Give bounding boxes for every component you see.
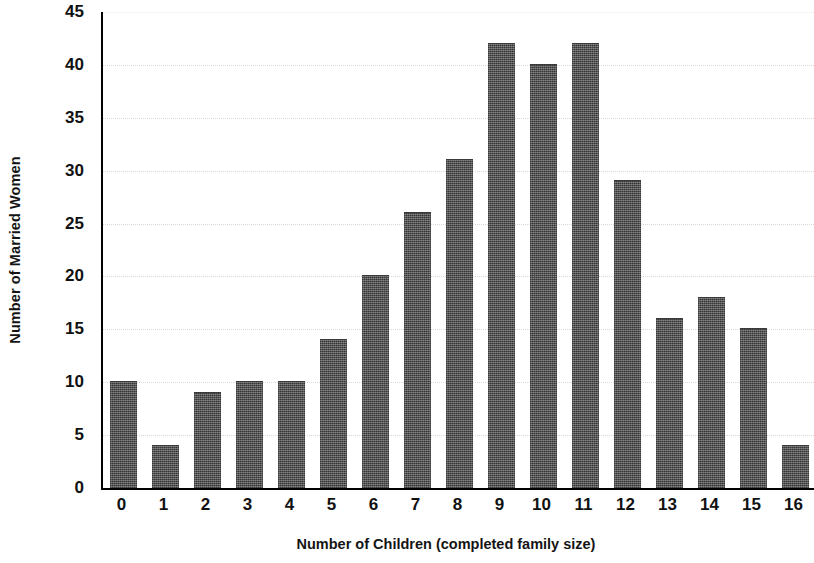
bar <box>110 381 137 488</box>
x-axis-tick-label: 13 <box>658 495 677 515</box>
bar <box>320 339 347 488</box>
bars-layer <box>103 12 814 488</box>
y-axis-tick-labels: 051015202530354045 <box>30 0 92 500</box>
y-axis-tick-label: 35 <box>65 108 84 128</box>
x-axis-tick-labels: 012345678910111213141516 <box>101 495 812 525</box>
bar <box>278 381 305 488</box>
x-axis-tick-label: 11 <box>575 495 593 515</box>
bar <box>656 318 683 488</box>
x-axis-tick-label: 1 <box>159 495 168 515</box>
bar <box>362 275 389 488</box>
y-axis-tick-label: 30 <box>65 161 84 181</box>
bar <box>530 64 557 488</box>
bar <box>404 212 431 488</box>
y-axis-tick-label: 20 <box>65 266 84 286</box>
x-axis-tick-label: 16 <box>784 495 803 515</box>
bar <box>446 159 473 488</box>
y-axis-tick-label: 10 <box>65 372 84 392</box>
x-axis-tick-label: 9 <box>495 495 504 515</box>
y-axis-title-text: Number of Married Women <box>7 156 23 343</box>
bar <box>572 43 599 488</box>
x-axis-tick-label: 7 <box>411 495 420 515</box>
x-axis-tick-label: 3 <box>243 495 252 515</box>
x-axis-tick-label: 10 <box>532 495 551 515</box>
y-axis-tick-label: 40 <box>65 55 84 75</box>
x-axis-tick-label: 4 <box>285 495 294 515</box>
x-axis-tick-label: 5 <box>327 495 336 515</box>
bar <box>152 445 179 488</box>
bar <box>236 381 263 488</box>
x-axis-tick-label: 6 <box>369 495 378 515</box>
y-axis-tick-label: 0 <box>75 478 84 498</box>
plot-area <box>101 12 814 490</box>
x-axis-tick-label: 8 <box>453 495 462 515</box>
bar <box>488 43 515 488</box>
bar <box>698 297 725 488</box>
bar <box>740 328 767 488</box>
x-axis-tick-label: 12 <box>616 495 635 515</box>
x-axis-tick-label: 14 <box>700 495 719 515</box>
bar <box>782 445 809 488</box>
x-axis-tick-label: 2 <box>201 495 210 515</box>
x-axis-tick-label: 0 <box>117 495 126 515</box>
bar <box>194 392 221 488</box>
y-axis-title: Number of Married Women <box>0 0 30 500</box>
bar <box>614 180 641 488</box>
y-axis-tick-label: 5 <box>75 425 84 445</box>
y-axis-tick-label: 15 <box>65 319 84 339</box>
y-axis-tick-label: 25 <box>65 214 84 234</box>
y-axis-tick-label: 45 <box>65 2 84 22</box>
x-axis-title: Number of Children (completed family siz… <box>101 536 791 552</box>
x-axis-tick-label: 15 <box>742 495 761 515</box>
